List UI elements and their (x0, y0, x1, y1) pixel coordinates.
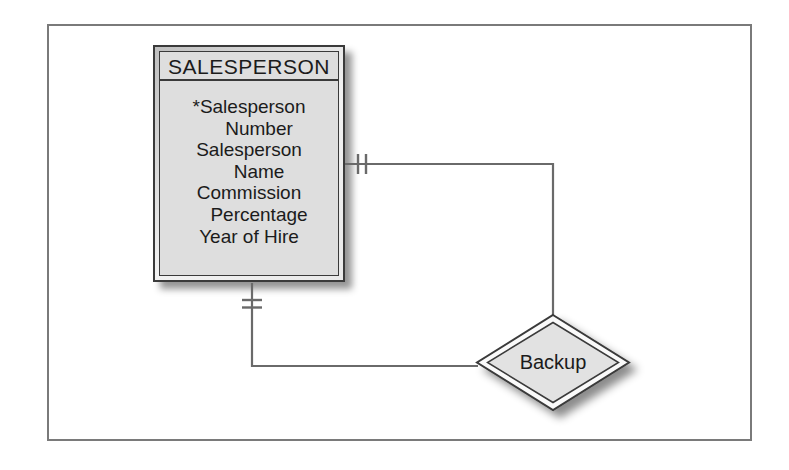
connector-entity-right-to-backup (345, 164, 553, 316)
diagram-canvas: SALESPERSON *Salesperson Number Salesper… (0, 0, 789, 470)
connector-entity-bottom-to-backup (252, 283, 478, 366)
relationship-label: Backup (498, 351, 608, 374)
connector-layer (0, 0, 789, 470)
